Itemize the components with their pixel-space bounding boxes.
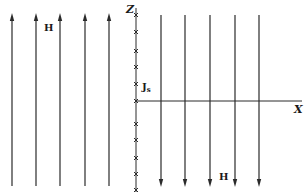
field-arrow-up (83, 13, 87, 186)
x-axis-label: X (294, 104, 303, 115)
field-arrow-up (58, 13, 62, 186)
field-arrow-up (34, 13, 38, 186)
arrowhead-down-icon (183, 179, 187, 187)
h-field-label-left: H (44, 23, 53, 33)
arrowhead-down-icon (233, 179, 237, 187)
h-field-label-right: H (219, 172, 228, 182)
surface-current-label: Js (142, 82, 151, 93)
arrowhead-down-icon (257, 179, 261, 187)
surface-current-subscript: s (147, 85, 151, 94)
z-axis-label: Z (126, 4, 134, 15)
field-arrow-up (10, 13, 14, 186)
arrowhead-up-icon (83, 13, 87, 21)
arrowhead-up-icon (58, 13, 62, 21)
field-diagram: Z X H H Js (0, 0, 305, 192)
left-field-lines (10, 13, 111, 186)
arrowhead-up-icon (10, 13, 14, 21)
arrowhead-down-icon (159, 179, 163, 187)
field-arrow-up (107, 13, 111, 186)
arrowhead-down-icon (208, 179, 212, 187)
arrowhead-up-icon (34, 13, 38, 21)
arrowhead-up-icon (107, 13, 111, 21)
